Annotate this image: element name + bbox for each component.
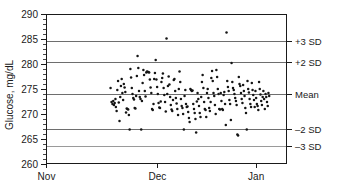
sd-label--3-sd: –3 SD [295, 141, 322, 152]
x-tick-label-jan: Jan [248, 171, 264, 182]
y-tick-label-270: 270 [21, 109, 38, 120]
data-point [240, 98, 243, 101]
y-tick-label-280: 280 [21, 59, 38, 70]
data-point [165, 110, 168, 113]
data-point [246, 80, 249, 83]
data-point [138, 90, 141, 93]
data-point [239, 85, 242, 88]
data-point [184, 89, 187, 92]
data-point [206, 88, 209, 91]
data-point [233, 93, 236, 96]
data-point [123, 86, 126, 89]
data-point [206, 92, 209, 95]
data-point [225, 31, 228, 34]
data-point [123, 83, 126, 86]
sd-reference-labels: +3 SD+2 SDMean–2 SD–3 SD [287, 36, 322, 152]
data-point [166, 93, 169, 96]
data-point [203, 101, 206, 104]
data-point [193, 108, 196, 111]
data-point [235, 100, 238, 103]
data-point [256, 105, 259, 108]
data-point [113, 102, 116, 105]
data-point [230, 119, 233, 122]
data-point [140, 128, 143, 131]
data-point [136, 55, 139, 58]
data-point [258, 81, 261, 84]
data-point [125, 111, 128, 114]
data-point [213, 95, 216, 98]
data-point [120, 78, 123, 81]
sd-label--3-sd: +3 SD [295, 36, 322, 47]
data-point [215, 69, 218, 72]
y-axis-ticks [41, 15, 46, 165]
data-point [162, 87, 165, 90]
data-point [208, 107, 211, 110]
sd-label--2-sd: +2 SD [295, 57, 322, 68]
data-point [254, 90, 257, 93]
data-point [157, 93, 160, 96]
data-point [154, 72, 157, 75]
data-point [251, 89, 254, 92]
data-point [165, 37, 168, 40]
data-point [137, 67, 140, 70]
data-point [159, 100, 162, 103]
plot-border [47, 15, 287, 164]
data-point [185, 103, 188, 106]
data-point [245, 112, 248, 115]
plot-frame [47, 15, 287, 164]
data-point [161, 77, 164, 80]
data-point [183, 95, 186, 98]
data-point [204, 109, 207, 112]
data-point [114, 98, 117, 101]
data-point [134, 107, 137, 110]
data-point [128, 128, 131, 131]
y-tick-label-290: 290 [21, 9, 38, 20]
data-point [212, 92, 215, 95]
data-point [199, 116, 202, 119]
data-point [112, 100, 115, 103]
data-point [243, 95, 246, 98]
data-point [207, 97, 210, 100]
data-point [253, 99, 256, 102]
data-point [118, 120, 121, 123]
y-tick-label-260: 260 [21, 159, 38, 170]
data-point [175, 102, 178, 105]
data-point [214, 104, 217, 107]
y-tick-label-275: 275 [21, 84, 38, 95]
data-point [150, 92, 153, 95]
data-point [109, 87, 112, 90]
data-point [263, 98, 266, 101]
data-point [205, 116, 208, 119]
data-point [212, 80, 215, 83]
data-point [191, 89, 194, 92]
data-point [155, 78, 158, 81]
data-point [196, 92, 199, 95]
data-point [266, 105, 269, 108]
data-point [260, 100, 263, 103]
data-point [186, 105, 189, 108]
data-point [249, 103, 252, 106]
data-point [115, 110, 118, 113]
y-tick-label-265: 265 [21, 134, 38, 145]
data-point [244, 107, 247, 110]
data-point [141, 100, 144, 103]
sd-label-mean: Mean [295, 89, 319, 100]
data-point [235, 104, 238, 107]
data-point [195, 131, 198, 134]
data-point [154, 59, 157, 62]
data-point [197, 98, 200, 101]
data-point [141, 82, 144, 85]
data-point [248, 98, 251, 101]
data-point [142, 69, 145, 72]
data-point [201, 81, 204, 84]
data-point [231, 81, 234, 84]
data-point [152, 103, 155, 106]
data-point [173, 78, 176, 81]
data-point [211, 70, 214, 73]
data-point [261, 96, 264, 99]
y-axis-title-group: Glucose, mg/dL [4, 60, 15, 130]
data-point [183, 128, 186, 131]
data-point [222, 94, 225, 97]
data-point [217, 93, 220, 96]
data-point [194, 118, 197, 121]
